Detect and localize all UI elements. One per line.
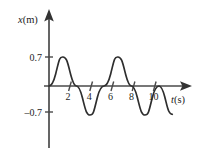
x-axis-label: t(s) — [171, 94, 186, 106]
x-tick-label-10: 10 — [149, 91, 159, 102]
y-tick-label-negative: –0.7 — [24, 107, 43, 118]
x-tick-label-4: 4 — [87, 91, 92, 102]
y-tick-label-positive: 0.7 — [30, 52, 43, 63]
x-axis-label-unit: (s) — [174, 94, 186, 106]
y-axis-label: x(m) — [17, 14, 38, 26]
x-tick-label-8: 8 — [129, 91, 134, 102]
plot-area: x(m) t(s) 0.7 –0.7 2 4 6 8 10 — [0, 0, 214, 157]
y-axis-label-unit: (m) — [23, 14, 39, 26]
displacement-time-graph: x(m) t(s) 0.7 –0.7 2 4 6 8 10 — [0, 0, 214, 157]
x-tick-label-6: 6 — [108, 91, 113, 102]
x-tick-label-2: 2 — [66, 91, 71, 102]
